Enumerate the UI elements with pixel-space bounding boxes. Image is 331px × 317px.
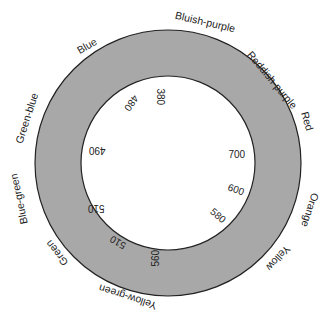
wavelength-label-700: 700 [229,150,246,160]
wavelength-label-560: 560 [151,250,161,267]
wavelength-label-510: 510 [88,203,105,213]
color-wheel [0,0,331,317]
wavelength-label-380: 380 [155,89,165,106]
ring-inner-edge [81,76,255,250]
wavelength-label-490: 490 [89,145,106,155]
